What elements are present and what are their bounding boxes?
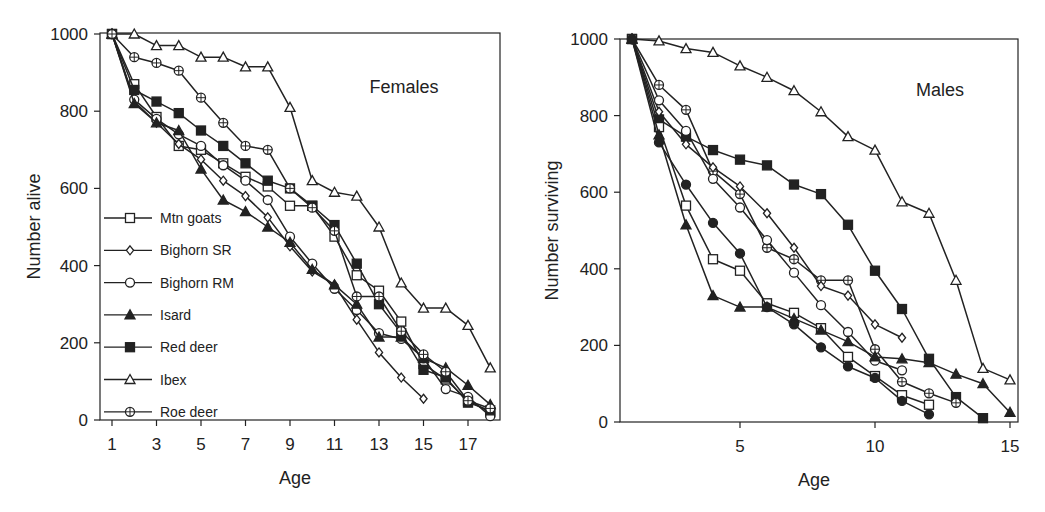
y-tick-label: 600 [580, 183, 608, 202]
filled-square-marker-icon [152, 97, 161, 106]
open-diamond-marker-icon [126, 246, 133, 255]
crossed-circle-marker-icon [441, 367, 450, 376]
crossed-circle-marker-icon [682, 105, 691, 114]
open-circle-marker-icon [682, 126, 691, 135]
filled-circle-marker-icon [763, 303, 772, 312]
open-triangle-marker-icon [951, 275, 961, 284]
open-circle-marker-icon [790, 268, 799, 277]
crossed-circle-marker-icon [375, 292, 384, 301]
open-circle-marker-icon [709, 174, 718, 183]
legend-item: Isard [104, 307, 191, 323]
legend-label: Bighorn RM [160, 275, 234, 291]
series-unlabeled-filled-circle- [628, 35, 934, 419]
y-tick-label: 200 [580, 336, 608, 355]
filled-square-marker-icon [419, 365, 428, 374]
open-square-marker-icon [352, 271, 361, 280]
filled-square-marker-icon [241, 159, 250, 168]
open-circle-marker-icon [197, 141, 206, 150]
filled-square-marker-icon [126, 343, 135, 352]
open-circle-marker-icon [219, 161, 228, 170]
open-triangle-marker-icon [307, 176, 317, 185]
filled-square-marker-icon [844, 220, 853, 229]
open-circle-marker-icon [898, 366, 907, 375]
filled-triangle-marker-icon [681, 220, 691, 229]
crossed-circle-marker-icon [844, 276, 853, 285]
y-axis-label: Number surviving [542, 160, 562, 300]
crossed-circle-marker-icon [130, 53, 139, 62]
open-triangle-marker-icon [897, 197, 907, 206]
legend-item: Roe deer [104, 404, 218, 420]
open-square-marker-icon [126, 214, 135, 223]
open-triangle-marker-icon [1005, 375, 1015, 384]
filled-square-marker-icon [871, 266, 880, 275]
open-circle-marker-icon [241, 176, 250, 185]
filled-square-marker-icon [763, 161, 772, 170]
y-tick-label: 0 [79, 411, 88, 430]
open-square-marker-icon [844, 352, 853, 361]
y-tick-label: 400 [580, 260, 608, 279]
crossed-circle-marker-icon [397, 327, 406, 336]
y-axis-label: Number alive [24, 173, 44, 279]
crossed-circle-marker-icon [152, 58, 161, 67]
crossed-circle-marker-icon [174, 66, 183, 75]
open-square-marker-icon [736, 266, 745, 275]
panel-title: Males [916, 80, 964, 100]
filled-square-marker-icon [263, 176, 272, 185]
filled-circle-marker-icon [736, 249, 745, 258]
filled-square-marker-icon [790, 180, 799, 189]
males-panel: 0200400600800100051015AgeNumber survivin… [542, 30, 1019, 490]
y-tick-label: 600 [60, 179, 88, 198]
series-line [632, 39, 929, 405]
crossed-circle-marker-icon [286, 184, 295, 193]
legend-item: Bighorn SR [104, 242, 232, 258]
crossed-circle-marker-icon [925, 389, 934, 398]
series-line [632, 39, 902, 338]
filled-square-marker-icon [898, 305, 907, 314]
filled-triangle-marker-icon [951, 369, 961, 378]
crossed-circle-marker-icon [419, 350, 428, 359]
crossed-circle-marker-icon [308, 203, 317, 212]
open-circle-marker-icon [736, 203, 745, 212]
open-triangle-marker-icon [789, 86, 799, 95]
legend-label: Ibex [160, 372, 186, 388]
x-tick-label: 10 [866, 437, 885, 456]
x-tick-label: 13 [370, 435, 389, 454]
open-triangle-marker-icon [924, 208, 934, 217]
filled-square-marker-icon [174, 109, 183, 118]
crossed-circle-marker-icon [952, 398, 961, 407]
crossed-circle-marker-icon [263, 145, 272, 154]
open-circle-marker-icon [817, 301, 826, 310]
y-tick-label: 1000 [50, 25, 88, 44]
x-axis-label: Age [279, 468, 311, 488]
crossed-circle-marker-icon [898, 377, 907, 386]
filled-triangle-marker-icon [263, 222, 273, 231]
open-triangle-marker-icon [762, 72, 772, 81]
legend: Mtn goatsBighorn SRBighorn RMIsardRed de… [104, 210, 234, 420]
crossed-circle-marker-icon [352, 292, 361, 301]
filled-circle-marker-icon [925, 410, 934, 419]
filled-square-marker-icon [817, 190, 826, 199]
crossed-circle-marker-icon [219, 118, 228, 127]
filled-square-marker-icon [197, 126, 206, 135]
open-square-marker-icon [682, 201, 691, 210]
filled-circle-marker-icon [655, 138, 664, 147]
open-circle-marker-icon [655, 96, 664, 105]
filled-square-marker-icon [709, 146, 718, 155]
panel-title: Females [369, 77, 438, 97]
y-tick-label: 800 [580, 107, 608, 126]
open-square-marker-icon [925, 400, 934, 409]
open-circle-marker-icon [126, 278, 135, 287]
crossed-circle-marker-icon [655, 80, 664, 89]
open-diamond-marker-icon [898, 333, 905, 342]
filled-circle-marker-icon [709, 218, 718, 227]
filled-circle-marker-icon [871, 373, 880, 382]
y-tick-label: 400 [60, 257, 88, 276]
females-panel: 020040060080010001357911131517AgeNumber … [24, 25, 500, 488]
legend-label: Roe deer [160, 404, 218, 420]
open-triangle-marker-icon [330, 187, 340, 196]
legend-item: Ibex [104, 372, 186, 388]
filled-circle-marker-icon [844, 362, 853, 371]
x-axis-label: Age [798, 470, 830, 490]
crossed-circle-marker-icon [464, 396, 473, 405]
open-square-marker-icon [397, 317, 406, 326]
